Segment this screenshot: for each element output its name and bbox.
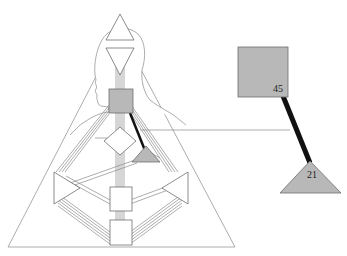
- sacral-center[interactable]: [110, 187, 132, 211]
- throat-center[interactable]: [109, 89, 133, 113]
- gate-45-label: 45: [273, 83, 283, 94]
- gate-21-label: 21: [307, 169, 317, 180]
- head-silhouette: [70, 28, 186, 135]
- detail-active-channel: [283, 96, 310, 163]
- root-center[interactable]: [110, 220, 132, 245]
- bodygraph-diagram: 45 21: [0, 0, 347, 256]
- head-center[interactable]: [106, 14, 134, 40]
- cross-channel: [70, 160, 137, 186]
- g-center[interactable]: [104, 127, 136, 155]
- left-channels: [56, 105, 110, 244]
- right-channels: [130, 105, 182, 244]
